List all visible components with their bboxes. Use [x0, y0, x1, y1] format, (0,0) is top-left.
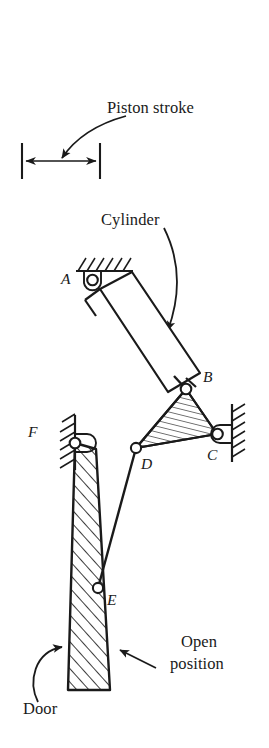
- point-label-a: A: [61, 271, 70, 287]
- point-label-b: B: [203, 369, 212, 385]
- door-leader-arrow: [33, 647, 62, 702]
- cylinder-label: Cylinder: [101, 211, 160, 228]
- piston-stroke-leader-arrow: [62, 116, 126, 158]
- piston-stroke-label: Piston stroke: [107, 99, 194, 116]
- open-position-label-line2: position: [170, 654, 224, 673]
- figure-canvas: Piston stroke Cylinder Open position Doo…: [0, 0, 269, 748]
- joint-d: [131, 443, 141, 453]
- cylinder-body: [85, 272, 200, 392]
- ternary-link-bcd: [136, 389, 217, 448]
- door-panel: [68, 443, 110, 690]
- point-label-d: D: [141, 456, 152, 472]
- cylinder-leader-arrow: [164, 228, 177, 330]
- piston-stroke-dimension: [22, 143, 100, 179]
- open-position-label-line1: Open: [181, 632, 217, 651]
- door-label: Door: [23, 700, 57, 717]
- joint-e: [93, 583, 103, 593]
- joint-b: [181, 384, 192, 395]
- point-label-f: F: [28, 424, 37, 440]
- point-label-c: C: [207, 447, 217, 463]
- point-label-e: E: [107, 592, 116, 608]
- open-position-leader-arrow: [120, 650, 156, 668]
